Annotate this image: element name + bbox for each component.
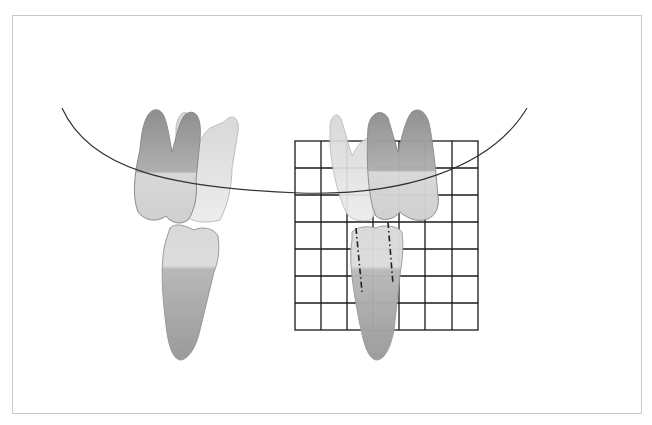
dental-diagram [0,0,652,425]
right-dark-molar [367,110,438,220]
left-premolar [162,225,219,360]
left-dark-molar [134,110,200,223]
right-tooth-group [330,110,438,360]
right-premolar [351,226,403,360]
left-tooth-group [134,110,238,360]
